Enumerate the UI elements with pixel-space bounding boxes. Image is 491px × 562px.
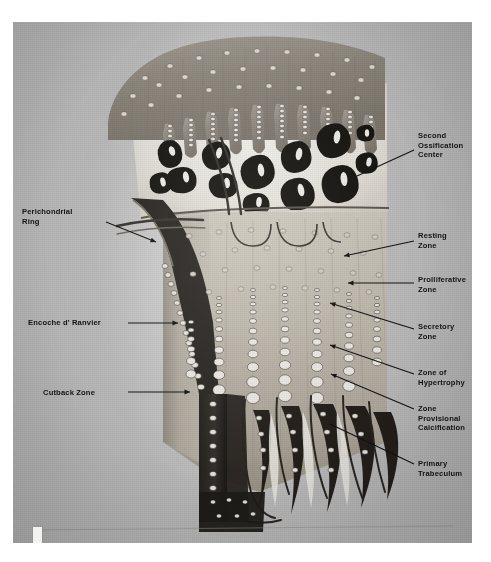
- leader-perichondrial-ring: [106, 222, 156, 242]
- label-resting-zone: Resting Zone: [418, 231, 447, 250]
- diaphyseal-cortex: [199, 492, 265, 532]
- arrowhead-perichondrial-ring: [150, 238, 156, 242]
- figure-page: Sanderson '73 Second Ossification Center…: [0, 0, 491, 562]
- label-encoche-d-ranvier: Encoche d' Ranvier: [28, 318, 101, 328]
- label-zone-of-hypertrophy: Zone of Hypertrophy: [418, 368, 465, 387]
- label-primary-trabeculum: Primary Trabeculum: [418, 459, 462, 478]
- photo-corner-chip: [33, 527, 42, 543]
- label-secretory-zone: Secretory Zone: [418, 322, 454, 341]
- growth-plate-illustration: [13, 22, 472, 543]
- label-zone-provisional-calcification: Zone Provisional Calcification: [418, 404, 465, 433]
- label-second-ossification-center: Second Ossification Center: [418, 131, 463, 160]
- photographic-plate: Sanderson '73: [13, 22, 472, 543]
- label-perichondrial-ring: Perichondrial Ring: [22, 207, 72, 226]
- label-cutback-zone: Cutback Zone: [43, 388, 95, 398]
- label-proliferative-zone: Prolliferative Zone: [418, 275, 466, 294]
